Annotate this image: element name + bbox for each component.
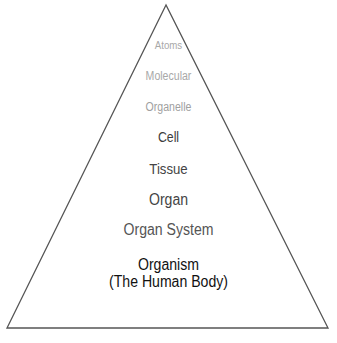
level-organism-sublabel: (The Human Body) (20, 273, 317, 290)
level-tissue: Tissue (20, 161, 317, 176)
level-molecular: Molecular (20, 70, 317, 82)
level-organelle: Organelle (20, 101, 317, 113)
level-atoms: Atoms (20, 40, 317, 51)
level-cell: Cell (20, 130, 317, 144)
level-organ-system: Organ System (20, 222, 317, 238)
level-organism: Organism (The Human Body) (20, 256, 317, 290)
level-organism-label: Organism (20, 256, 317, 273)
level-organ: Organ (20, 192, 317, 208)
